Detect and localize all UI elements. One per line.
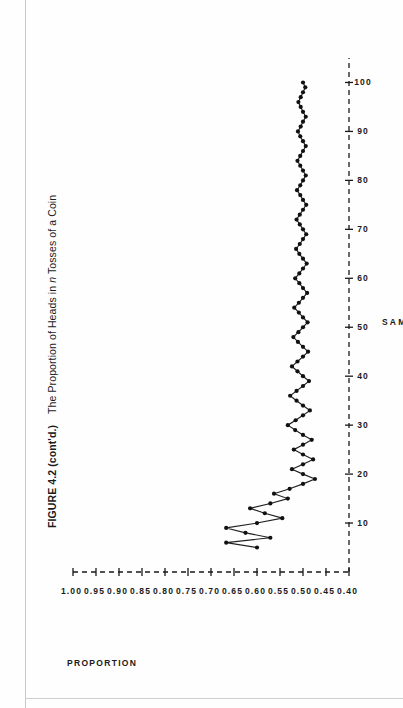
axes-group: [73, 58, 353, 576]
data-point: [311, 457, 315, 461]
data-point: [301, 482, 305, 486]
data-point: [268, 501, 272, 505]
data-point: [301, 139, 305, 143]
data-point: [272, 492, 276, 496]
data-point: [290, 364, 294, 368]
data-point: [293, 276, 297, 280]
data-point: [305, 291, 309, 295]
data-point: [304, 203, 308, 207]
data-point: [301, 315, 305, 319]
data-point: [294, 399, 298, 403]
data-point: [291, 335, 295, 339]
y-tick-label: 0.60: [244, 586, 266, 596]
data-point: [263, 511, 267, 515]
y-tick-label: 0.40: [336, 586, 358, 596]
data-point: [255, 545, 259, 549]
data-point: [298, 183, 302, 187]
data-point: [301, 168, 305, 172]
data-point: [294, 389, 298, 393]
data-point: [294, 247, 298, 251]
scan-edge-line-bottom: [25, 698, 403, 699]
data-point: [305, 262, 309, 266]
data-point: [268, 536, 272, 540]
data-point: [295, 369, 299, 373]
y-tick-label: 0.75: [175, 586, 197, 596]
data-point: [224, 526, 228, 530]
data-point: [301, 296, 305, 300]
data-point: [301, 472, 305, 476]
y-axis-title: PROPORTION: [67, 658, 137, 668]
data-point: [298, 154, 302, 158]
chart-svg: [57, 44, 387, 664]
data-point: [280, 516, 284, 520]
scatter-line-plot: 1.000.950.900.850.800.750.700.650.600.55…: [57, 44, 387, 664]
data-point: [296, 330, 300, 334]
data-point: [297, 310, 301, 314]
data-point: [288, 394, 292, 398]
data-point: [304, 173, 308, 177]
data-point: [301, 120, 305, 124]
data-point: [296, 100, 300, 104]
data-point: [301, 325, 305, 329]
x-tick-label: 70: [352, 224, 374, 234]
y-tick-label: 0.80: [152, 586, 174, 596]
x-tick-label: 20: [352, 469, 374, 479]
data-point: [301, 149, 305, 153]
data-point: [307, 379, 311, 383]
data-point: [290, 467, 294, 471]
data-point: [224, 541, 228, 545]
data-point: [295, 359, 299, 363]
data-point: [243, 531, 247, 535]
data-point: [301, 237, 305, 241]
x-tick-label: 30: [352, 420, 374, 430]
data-point: [286, 496, 290, 500]
data-point: [301, 345, 305, 349]
y-tick-label: 0.55: [267, 586, 289, 596]
data-point: [255, 521, 259, 525]
plot-rotation-wrapper: 1.000.950.900.850.800.750.700.650.600.55…: [57, 44, 387, 664]
y-tick-label: 0.70: [198, 586, 220, 596]
data-point: [301, 452, 305, 456]
scan-edge-line: [25, 0, 26, 708]
data-point: [297, 271, 301, 275]
figure-page: FIGURE 4.2 (cont'd.)The Proportion of He…: [0, 0, 403, 708]
data-point: [301, 403, 305, 407]
x-tick-label: 100: [352, 77, 374, 87]
data-point: [293, 428, 297, 432]
data-point: [301, 443, 305, 447]
x-tick-label: 40: [352, 371, 374, 381]
data-point: [295, 159, 299, 163]
data-point: [306, 320, 310, 324]
data-point: [301, 433, 305, 437]
y-tick-label: 1.00: [60, 586, 82, 596]
data-point: [297, 252, 301, 256]
data-point: [301, 355, 305, 359]
x-tick-label: 50: [352, 322, 374, 332]
data-point: [301, 462, 305, 466]
data-point: [248, 506, 252, 510]
data-point: [299, 124, 303, 128]
data-point: [298, 134, 302, 138]
data-point: [301, 286, 305, 290]
data-point: [298, 164, 302, 168]
data-point: [296, 340, 300, 344]
data-point: [301, 80, 305, 84]
x-tick-label: 80: [352, 175, 374, 185]
data-point: [304, 232, 308, 236]
data-point: [301, 178, 305, 182]
y-tick-label: 0.50: [290, 586, 312, 596]
data-point: [292, 306, 296, 310]
y-tick-label: 0.90: [106, 586, 128, 596]
y-tick-label: 0.45: [313, 586, 335, 596]
data-point: [313, 477, 317, 481]
data-point: [304, 144, 308, 148]
data-point: [298, 242, 302, 246]
y-tick-label: 0.65: [221, 586, 243, 596]
y-tick-label: 0.85: [129, 586, 151, 596]
y-tick-label: 0.95: [83, 586, 105, 596]
data-point: [286, 423, 290, 427]
x-tick-label: 10: [352, 518, 374, 528]
data-group: [224, 80, 317, 549]
data-point: [297, 301, 301, 305]
data-markers: [224, 80, 317, 549]
